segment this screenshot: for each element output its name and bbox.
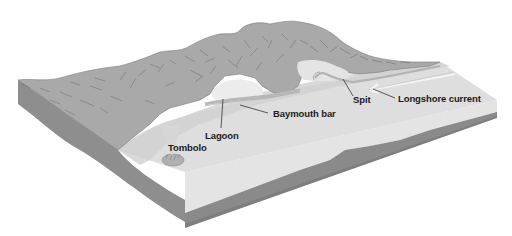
diagram-canvas — [0, 0, 512, 236]
block-diagram: Lagoon Baymouth bar Spit Longshore curre… — [0, 0, 512, 236]
tombolo-island — [162, 154, 184, 166]
label-tombolo: Tombolo — [168, 143, 207, 153]
label-longshore-current: Longshore current — [398, 94, 481, 104]
label-lagoon: Lagoon — [205, 131, 239, 141]
label-spit: Spit — [353, 95, 371, 105]
label-baymouth-bar: Baymouth bar — [273, 109, 336, 119]
